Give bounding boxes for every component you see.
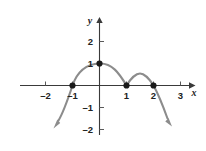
x-tick-label--2: –2: [40, 90, 51, 101]
marked-point-1-0: [123, 82, 129, 88]
x-tick-label-1: 1: [124, 90, 130, 101]
marked-point-0-1: [96, 60, 102, 66]
y-tick-label-1: 1: [88, 58, 94, 69]
y-tick-label--1: –1: [82, 102, 93, 113]
curve-right-arrowhead: [165, 118, 172, 127]
y-axis-arrowhead: [96, 17, 102, 23]
y-tick-label-2: 2: [88, 36, 93, 47]
x-axis-label: x: [191, 87, 197, 98]
coordinate-plot: –2 –1 1 2 3 2 1 –1 –2 y x: [0, 0, 206, 151]
marked-point-minus1-0: [69, 82, 75, 88]
x-tick-label-2: 2: [151, 90, 156, 101]
graph-figure: –2 –1 1 2 3 2 1 –1 –2 y x: [0, 0, 206, 151]
x-tick-label--1: –1: [67, 90, 78, 101]
y-axis-label: y: [87, 15, 93, 26]
y-tick-label--2: –2: [82, 124, 93, 135]
marked-point-2-0: [150, 82, 156, 88]
x-tick-label-3: 3: [178, 90, 183, 101]
